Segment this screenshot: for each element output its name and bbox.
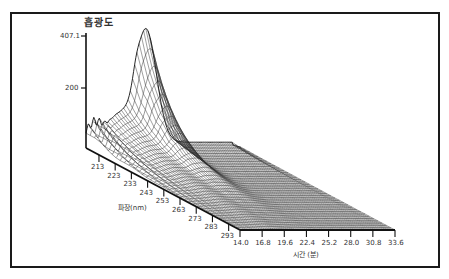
time-tick-label: 28.0 <box>344 239 360 247</box>
time-tick-label: 30.8 <box>366 239 382 247</box>
wavelength-tick-label: 273 <box>188 215 201 223</box>
wavelength-tick-label: 233 <box>123 180 136 188</box>
time-tick-label: 19.6 <box>277 239 293 247</box>
wavelength-tick-label: 243 <box>140 189 153 197</box>
time-tick-label: 14.0 <box>233 239 249 247</box>
wavelength-axis-label: 파장(nm) <box>118 202 147 212</box>
z-tick-label: 407.1 <box>60 32 80 40</box>
wavelength-tick-label: 293 <box>221 232 234 240</box>
z-tick-label: 200 <box>65 84 78 92</box>
wavelength-tick-label: 283 <box>204 223 217 231</box>
surface-mesh <box>86 29 395 231</box>
wavelength-tick-label: 223 <box>107 172 120 180</box>
time-tick-label: 25.2 <box>322 239 338 247</box>
wavelength-tick-label: 213 <box>91 163 104 171</box>
wavelength-tick-label: 263 <box>172 206 185 214</box>
time-tick-label: 33.6 <box>388 239 404 247</box>
wavelength-tick-label: 253 <box>156 197 169 205</box>
time-axis-label: 시간 (분) <box>293 249 319 259</box>
time-tick-label: 22.4 <box>299 239 315 247</box>
time-tick-label: 16.8 <box>255 239 271 247</box>
